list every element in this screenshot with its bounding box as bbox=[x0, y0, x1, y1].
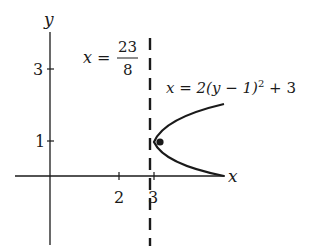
asymptote-label-denominator: 8 bbox=[123, 61, 133, 79]
asymptote-label-lhs: x = bbox=[83, 48, 111, 67]
y-tick-label-3: 3 bbox=[33, 60, 43, 79]
y-tick-label-1: 1 bbox=[35, 132, 45, 151]
y-axis-label: y bbox=[43, 9, 54, 29]
parabola-diagram: y x 3 1 2 3 x = 23 8 x = 2(y − 1)2 + 3 bbox=[0, 0, 309, 251]
asymptote-label-numerator: 23 bbox=[118, 38, 137, 56]
x-tick-label-3: 3 bbox=[148, 188, 158, 207]
x-axis-label: x bbox=[228, 166, 238, 186]
x-tick-label-2: 2 bbox=[114, 188, 124, 207]
parabola-curve bbox=[154, 104, 224, 176]
curve-label: x = 2(y − 1)2 + 3 bbox=[166, 78, 296, 97]
focus-point bbox=[156, 138, 163, 145]
